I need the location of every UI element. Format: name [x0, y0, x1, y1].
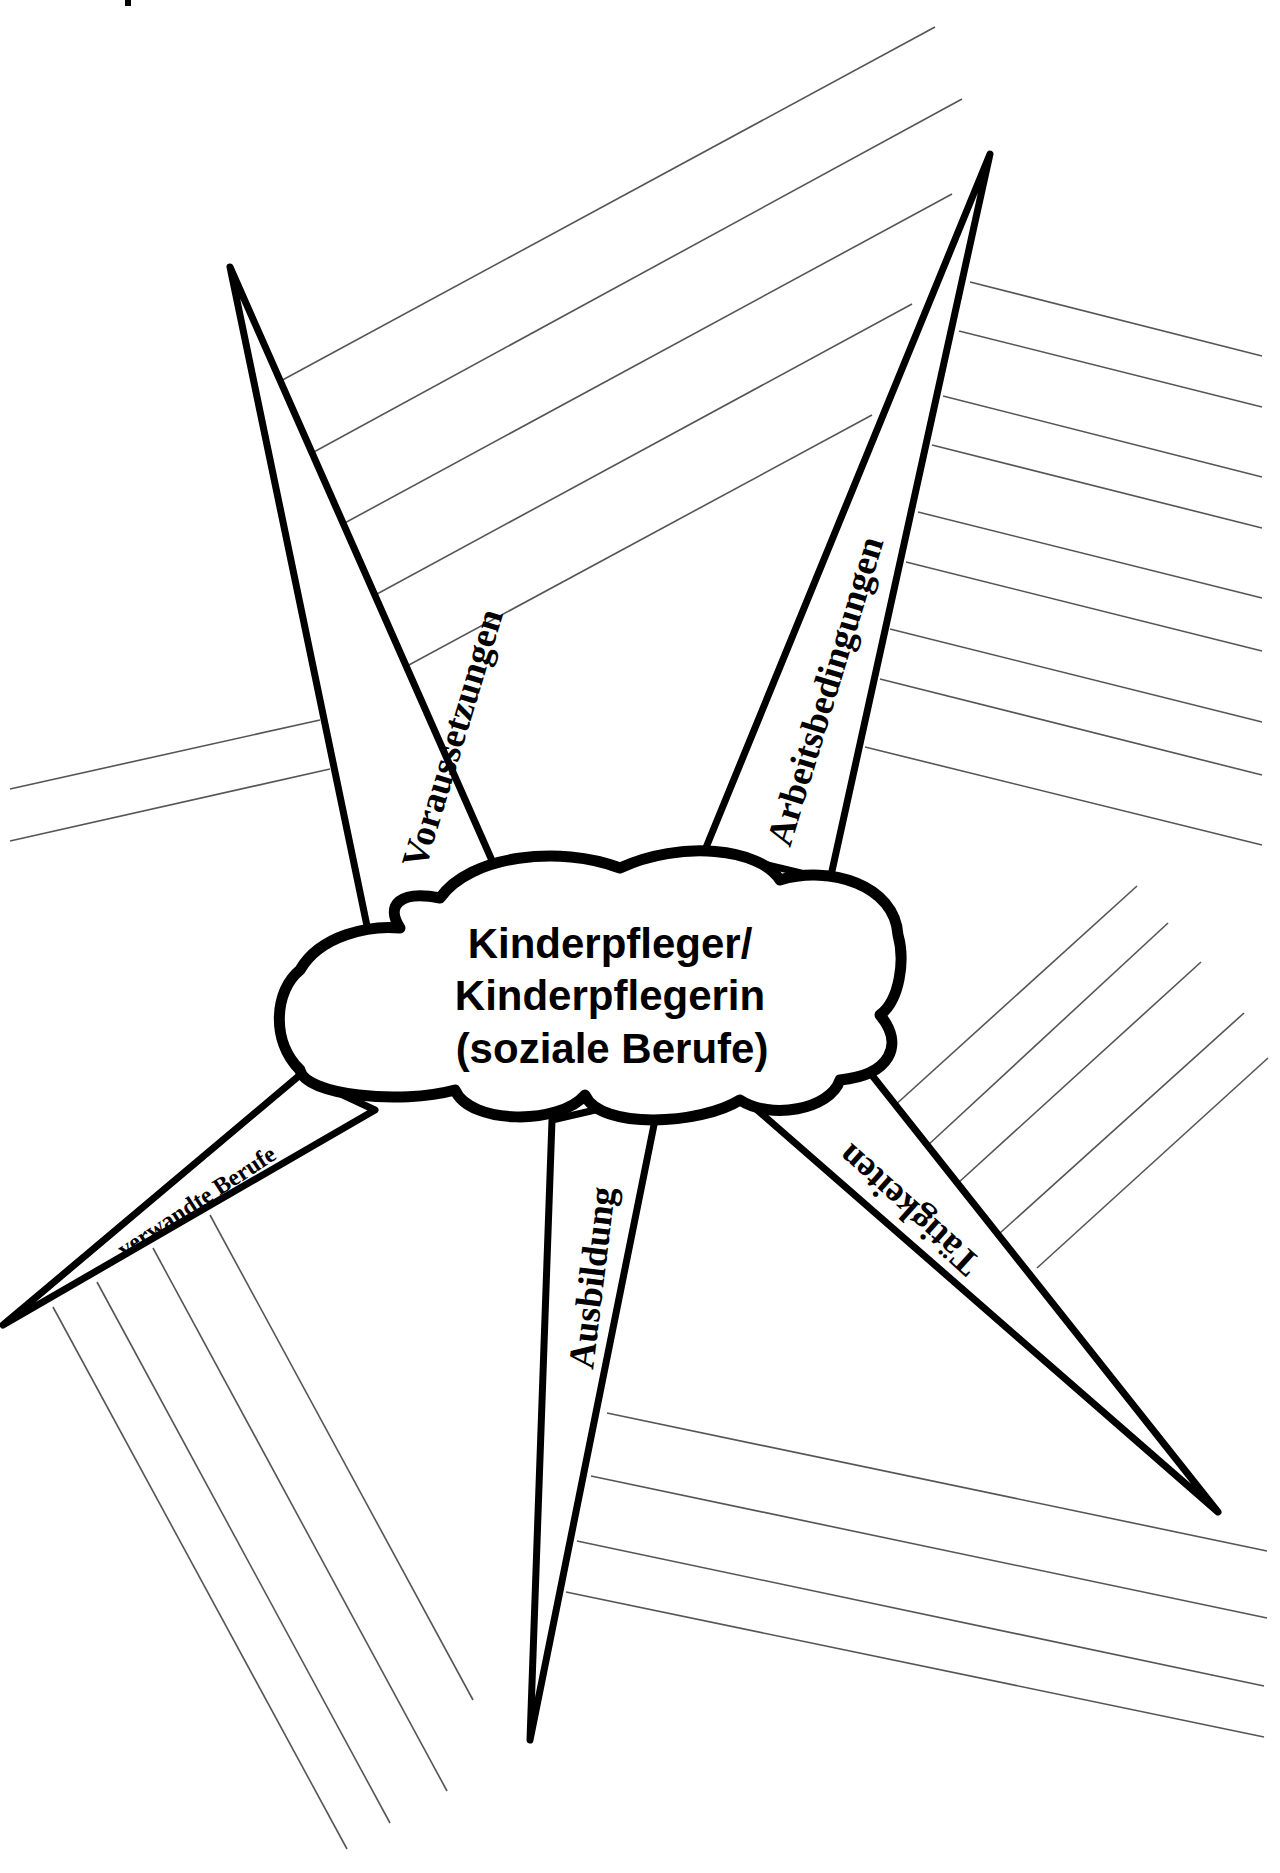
writing-line[interactable] [927, 923, 1168, 1146]
writing-line[interactable] [607, 1413, 1267, 1551]
writing-line[interactable] [958, 962, 1201, 1183]
mind-map-diagram: Kinderpfleger/ Kinderpflegerin (soziale … [0, 0, 1280, 1873]
center-label-line-2: Kinderpflegerin [455, 972, 765, 1019]
writing-line[interactable] [591, 1476, 1267, 1618]
center-label-line-1: Kinderpfleger/ [468, 920, 753, 967]
writing-line[interactable] [890, 629, 1262, 722]
writing-line[interactable] [943, 396, 1262, 477]
arm-voraussetzungen [230, 267, 505, 950]
writing-line[interactable] [880, 679, 1262, 775]
center-label-line-3: (soziale Berufe) [456, 1025, 769, 1072]
writing-line[interactable] [893, 886, 1137, 1107]
writing-line[interactable] [865, 747, 1262, 845]
writing-line[interactable] [264, 27, 935, 390]
writing-line[interactable] [1037, 1058, 1268, 1268]
writing-line[interactable] [577, 1541, 1264, 1686]
writing-lines-verwandte-berufe [53, 1215, 473, 1849]
writing-line[interactable] [290, 99, 962, 465]
writing-line[interactable] [10, 769, 330, 841]
writing-line[interactable] [959, 331, 1262, 407]
writing-line[interactable] [153, 1248, 447, 1791]
writing-line[interactable] [10, 720, 320, 789]
writing-line[interactable] [1000, 1013, 1244, 1233]
clipped-header-text [125, 0, 131, 6]
writing-line[interactable] [932, 445, 1262, 528]
writing-line[interactable] [53, 1307, 347, 1849]
writing-line[interactable] [97, 1282, 390, 1823]
arm-arbeitsbedingungen [705, 154, 990, 880]
writing-line[interactable] [210, 1215, 473, 1700]
writing-line[interactable] [906, 562, 1262, 651]
writing-line[interactable] [918, 512, 1262, 598]
center-label: Kinderpfleger/ Kinderpflegerin (soziale … [455, 920, 769, 1072]
arm-taetigkeiten [740, 1045, 1218, 1512]
